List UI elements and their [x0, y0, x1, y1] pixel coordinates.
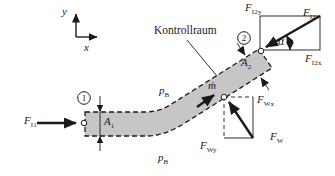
label-area-2: A2	[241, 57, 251, 71]
force-triangle-f-w	[224, 97, 253, 138]
area-1-lower-arrow	[97, 136, 103, 143]
label-f-i2y: FI2y	[245, 2, 262, 16]
label-alpha: α	[278, 35, 284, 47]
coordinate-axes	[76, 14, 97, 37]
label-p-b-top: pB	[159, 85, 169, 99]
label-f-w: FW	[270, 131, 284, 145]
outlet-attachment-point	[258, 48, 264, 54]
section-2-number: 2	[242, 33, 247, 43]
force-arrow-f-w	[229, 102, 253, 138]
label-f-wx: FWx	[257, 94, 274, 108]
inlet-attachment-point	[81, 120, 87, 126]
wall-force-attachment-point	[221, 94, 227, 100]
kontrollraum-pointer-line	[187, 40, 217, 76]
section-1-number: 1	[82, 93, 87, 103]
x-axis-label: x	[84, 42, 89, 53]
area-2-upper-arrow	[237, 43, 245, 55]
section-2-marker: 2	[238, 32, 251, 45]
label-f-i1: FI1	[24, 115, 37, 129]
area-2-lower-arrow	[261, 78, 269, 90]
label-f-i2x: FI2x	[305, 53, 322, 67]
label-p-b-bottom: pB	[158, 152, 168, 166]
y-axis-label: y	[62, 6, 67, 17]
label-f-i2: FI2	[303, 7, 316, 21]
kontrollraum-label: Kontrollraum	[154, 25, 217, 37]
label-area-1: A1	[104, 116, 114, 130]
area-1-upper-arrow	[97, 105, 103, 112]
alpha-angle-arc	[287, 36, 291, 51]
section-1-marker: 1	[78, 92, 91, 105]
label-mass-flow: ṁ	[208, 80, 216, 91]
label-f-wy: FWy	[200, 140, 217, 154]
figure-canvas: 1 2 y x Kontrollraum FI1 pB pB A1 A2 ṁ F…	[0, 0, 335, 176]
